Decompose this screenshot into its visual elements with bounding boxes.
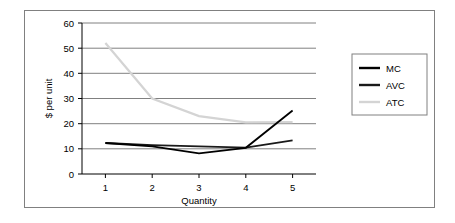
legend-label-mc: MC [386,63,401,74]
y-tick-label-20: 20 [63,118,74,129]
chart-figure-frame: 60 50 40 30 20 10 0 1 2 3 4 5 Quantity $… [24,10,435,208]
y-axis-title: $ per unit [43,78,54,118]
x-axis-title: Quantity [181,195,217,206]
screenshot-root: 60 50 40 30 20 10 0 1 2 3 4 5 Quantity $… [0,0,455,223]
y-tick-label-10: 10 [63,143,74,154]
x-tick-label-5: 5 [290,182,295,193]
x-tick-label-4: 4 [243,182,248,193]
economics-cost-curves-chart: 60 50 40 30 20 10 0 1 2 3 4 5 Quantity $… [25,11,434,207]
chart-legend[interactable]: MC AVC ATC [352,54,427,115]
legend-label-avc: AVC [386,80,405,91]
y-tick-label-50: 50 [63,43,74,54]
y-tick-label-40: 40 [63,68,74,79]
y-tick-label-60: 60 [63,18,74,29]
legend-label-atc: ATC [386,97,404,108]
x-tick-label-2: 2 [150,182,155,193]
y-tick-label-0: 0 [69,169,74,180]
x-tick-label-3: 3 [196,182,201,193]
y-tick-label-30: 30 [63,93,74,104]
x-tick-label-1: 1 [103,182,108,193]
